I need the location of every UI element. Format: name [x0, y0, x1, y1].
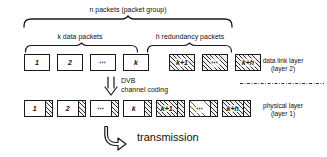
data-link-layer-packet-row: 1 2 ⋯ k k+1 ⋯ k+h [24, 54, 261, 71]
k-data-packets-label: k data packets [25, 33, 135, 42]
layer-separator-dashdot [240, 82, 324, 85]
channel-coding-strip [45, 101, 53, 116]
channel-coding-strip [78, 101, 86, 116]
channel-coding-strip [111, 101, 119, 116]
coded-redundancy-packet-box-ellipsis[interactable]: ⋯ [189, 100, 218, 117]
row-group-gap [156, 54, 162, 71]
layer-caption-line1: data link layer [243, 57, 323, 65]
packet-box[interactable]: 1 [24, 54, 50, 71]
packet-box[interactable]: 2 [57, 54, 83, 71]
packet-box[interactable]: k [123, 54, 149, 71]
layer-caption-line1: physical layer [243, 102, 323, 110]
coded-packet-payload: 1 [25, 101, 45, 116]
layer-caption-physical: physical layer (layer 1) [243, 102, 323, 118]
coded-packet-box[interactable]: 1 [24, 100, 53, 117]
dvb-label-line2: channel coding [121, 86, 168, 95]
brace-h-redundancy-packets [146, 42, 234, 53]
packet-label: ⋯ [99, 59, 107, 67]
channel-coding-strip [210, 101, 218, 116]
packet-label: k+1 [176, 59, 189, 66]
brace-n-packets [22, 15, 234, 28]
redundancy-packet-box-ellipsis[interactable]: ⋯ [202, 54, 228, 71]
packet-box-ellipsis[interactable]: ⋯ [90, 54, 116, 71]
layer-caption-data-link: data link layer (layer 2) [243, 57, 323, 73]
packet-label: 2 [68, 59, 73, 66]
packet-label: k [134, 59, 139, 66]
layer-caption-line2: (layer 1) [243, 110, 323, 118]
bent-down-right-arrow-icon [104, 125, 128, 151]
channel-coding-strip [144, 101, 152, 116]
h-redundancy-packets-label: h redundancy packets [145, 33, 235, 42]
dvb-label-line1: DVB [121, 77, 135, 86]
coded-packet-box[interactable]: k [123, 100, 152, 117]
coded-packet-box-ellipsis[interactable]: ⋯ [90, 100, 119, 117]
coded-packet-box[interactable]: 2 [57, 100, 86, 117]
coded-packet-payload: ⋯ [190, 101, 210, 116]
coded-packet-payload: k+1 [157, 101, 177, 116]
transmission-label: transmission [137, 131, 199, 143]
double-down-arrow-icon [104, 76, 118, 96]
channel-coding-strip [177, 101, 185, 116]
coded-packet-payload: 2 [58, 101, 78, 116]
packet-label: k+h [227, 105, 239, 112]
packet-label: 1 [35, 59, 40, 66]
layer-caption-line2: (layer 2) [243, 65, 323, 73]
packet-label: 1 [33, 105, 37, 112]
packet-label: 2 [66, 105, 70, 112]
coded-packet-payload: k [124, 101, 144, 116]
packet-label: k+1 [161, 105, 173, 112]
coded-packet-payload: ⋯ [91, 101, 111, 116]
n-packets-label: n packets (packet group) [68, 6, 188, 15]
packet-label: ⋯ [196, 105, 203, 113]
diagram-canvas: n packets (packet group) k data packets … [0, 0, 327, 157]
packet-label: k [132, 105, 136, 112]
coded-packet-payload: k+h [223, 101, 243, 116]
physical-layer-packet-row: 1 2 ⋯ k k+1 [24, 100, 251, 117]
brace-k-data-packets [24, 42, 140, 53]
packet-label: ⋯ [97, 105, 104, 113]
redundancy-packet-box[interactable]: k+1 [169, 54, 195, 71]
coded-redundancy-packet-box[interactable]: k+1 [156, 100, 185, 117]
packet-label: ⋯ [211, 59, 219, 67]
